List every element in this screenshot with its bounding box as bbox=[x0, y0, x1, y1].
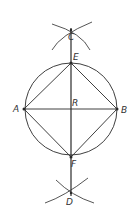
side-fa bbox=[24, 109, 71, 157]
geometry-diagram: A B C D E F R bbox=[0, 0, 135, 219]
diagram-svg: A B C D E F R bbox=[0, 0, 135, 219]
label-r: R bbox=[72, 98, 78, 108]
point-d-dot bbox=[70, 192, 72, 194]
label-e: E bbox=[73, 52, 79, 62]
label-d: D bbox=[66, 197, 73, 207]
label-b: B bbox=[121, 105, 127, 115]
point-a-dot bbox=[23, 108, 26, 111]
point-c-dot bbox=[70, 29, 72, 31]
label-c: C bbox=[68, 32, 75, 42]
label-a: A bbox=[12, 104, 19, 114]
label-f: F bbox=[71, 159, 77, 169]
construction-arc-bottom-right bbox=[56, 180, 94, 203]
point-b-dot bbox=[116, 108, 119, 111]
